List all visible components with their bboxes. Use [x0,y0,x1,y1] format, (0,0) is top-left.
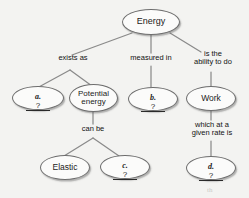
scan-artifact-mark: th [207,186,212,194]
blank-a-rule: ? [26,102,50,111]
edge-label-which-at-a-given-rate-is: which at a given rate is [182,121,242,137]
blank-b: b.? [141,86,165,112]
node-blank-d[interactable]: d.? [186,156,236,180]
blank-a: a.? [26,85,50,111]
blank-c-rule: ? [113,171,137,180]
blank-d: d.? [199,155,223,181]
node-potential-energy-label: Potential energy [78,90,109,107]
node-blank-a[interactable]: a.? [12,86,64,110]
edge-energy-to-exists-as [72,33,132,55]
edge-label-is-the-ability-to-do: is the ability to do [185,50,241,66]
node-energy-label: Energy [137,17,166,26]
blank-b-rule: ? [141,103,165,112]
node-work[interactable]: Work [186,86,236,111]
node-elastic[interactable]: Elastic [40,155,90,180]
edge-label-can-be: can be [73,125,113,133]
edge-label-measured-in: measured in [125,54,177,62]
node-work-label: Work [201,94,221,103]
node-energy[interactable]: Energy [122,9,180,35]
node-potential-energy[interactable]: Potential energy [69,84,118,112]
blank-d-rule: ? [199,172,223,181]
edge-can-be-to-elastic [64,138,93,156]
edge-label-exists-as: exists as [51,54,95,62]
node-blank-b[interactable]: b.? [128,87,178,111]
concept-map-diagram: Energy a.? Potential energy b.? Work Ela… [0,0,249,198]
node-elastic-label: Elastic [52,163,77,172]
blank-c: c.? [113,154,137,180]
node-blank-c[interactable]: c.? [100,155,150,179]
